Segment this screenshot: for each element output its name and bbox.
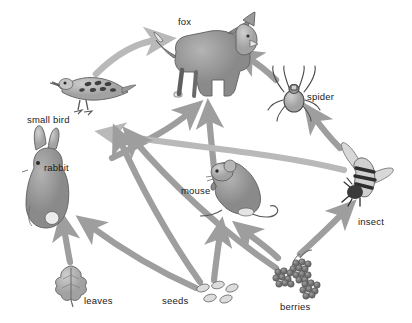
label-leaves: leaves	[84, 296, 113, 306]
link-seeds-to-small_bird	[120, 140, 200, 282]
leaves-illustration	[56, 266, 87, 307]
link-leaves-to-rabbit	[64, 228, 70, 262]
label-spider: spider	[307, 92, 334, 102]
rabbit-illustration	[22, 126, 69, 228]
link-berries-to-insect	[300, 212, 344, 254]
fox-illustration	[154, 12, 258, 97]
link-insect-to-spider	[314, 117, 340, 148]
insect-illustration	[342, 143, 394, 206]
label-insect: insect	[358, 217, 384, 227]
food-web-diagram: fox spider small bird rabbit mouse insec…	[0, 0, 412, 323]
mouse-illustration	[200, 160, 278, 217]
label-rabbit: rabbit	[44, 163, 69, 173]
small-bird-illustration	[50, 77, 136, 115]
label-seeds: seeds	[162, 296, 188, 306]
label-mouse: mouse	[181, 186, 211, 196]
link-small_bird-to-fox	[96, 40, 158, 74]
label-fox: fox	[178, 17, 191, 27]
label-berries: berries	[280, 302, 310, 312]
link-seeds-to-mouse	[214, 234, 220, 280]
link-spider-to-fox	[248, 58, 276, 80]
link-berries-to-mouse	[246, 232, 278, 258]
link-mouse-to-fox	[209, 116, 214, 168]
label-small-bird: small bird	[27, 115, 70, 125]
